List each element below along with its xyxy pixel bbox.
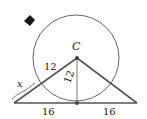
tangent-point xyxy=(75,101,79,105)
external-segment-label: x xyxy=(17,78,23,89)
base-right-label: 16 xyxy=(103,106,116,117)
right-tangent-segment xyxy=(77,58,137,103)
slant-length-label: 12 xyxy=(44,61,57,72)
center-label: C xyxy=(72,40,81,53)
diamond-bullet-icon xyxy=(24,15,35,26)
base-left-label: 16 xyxy=(42,106,55,117)
center-point xyxy=(75,56,79,60)
radius-length-label: 12 xyxy=(62,69,77,85)
geometry-figure: C 12 12 x 16 16 xyxy=(0,0,147,119)
